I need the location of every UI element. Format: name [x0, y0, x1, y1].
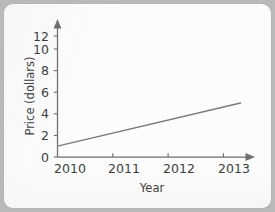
- x-tick-label-2012: 2012: [163, 161, 195, 176]
- y-tick-label-10: 10: [33, 42, 49, 57]
- x-axis-group: 2010 2011 2012 2013 Year: [54, 153, 255, 195]
- y-tick-label-8: 8: [41, 63, 49, 78]
- figure-root: 0 2 4 6 8 10 12 Price (dollars) 2010 201…: [0, 0, 275, 212]
- y-axis-group: 0 2 4 6 8 10 12 Price (dollars): [23, 19, 61, 165]
- y-tick-label-0: 0: [41, 150, 49, 165]
- y-axis-title: Price (dollars): [23, 56, 37, 135]
- x-tick-label-2010: 2010: [54, 161, 86, 176]
- y-tick-label-2: 2: [41, 128, 49, 143]
- x-axis-title: Year: [139, 181, 165, 195]
- y-tick-label-6: 6: [41, 85, 49, 100]
- y-tick-label-12: 12: [33, 29, 49, 44]
- series-line-price: [58, 103, 241, 146]
- x-tick-label-2011: 2011: [108, 161, 140, 176]
- x-tick-label-2013: 2013: [218, 161, 250, 176]
- y-tick-label-4: 4: [41, 106, 49, 121]
- line-chart: 0 2 4 6 8 10 12 Price (dollars) 2010 201…: [0, 0, 275, 212]
- series-group: [58, 103, 241, 146]
- y-axis-arrow-icon: [54, 19, 62, 29]
